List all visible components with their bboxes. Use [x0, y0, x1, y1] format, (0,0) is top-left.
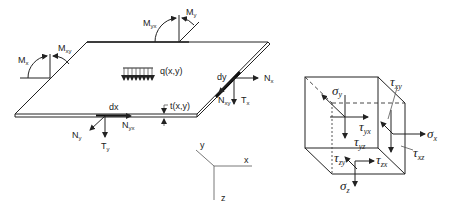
- label-dy: dy: [217, 72, 227, 82]
- label-myx: Myx: [143, 18, 157, 29]
- label-dx: dx: [109, 102, 119, 112]
- label-tau-yz: τyz: [354, 134, 366, 151]
- label-ny: Ny: [72, 130, 82, 141]
- label-tau-xz: τxz: [413, 145, 425, 162]
- moment-mx-mxy: Mx Mxy: [18, 43, 72, 78]
- label-tx: Tx: [241, 95, 250, 106]
- label-thickness: t(x,y): [170, 101, 190, 111]
- label-nx: Nx: [264, 73, 274, 84]
- axis-z-label: z: [221, 193, 226, 203]
- plate: [15, 42, 270, 117]
- moment-myx-my: Myx My: [143, 7, 199, 42]
- label-nxy: Nxy: [218, 95, 231, 106]
- label-ty: Ty: [101, 141, 110, 152]
- label-mxy: Mxy: [58, 43, 72, 54]
- label-my: My: [186, 7, 197, 18]
- axis-y-label: y: [200, 140, 205, 150]
- label-load-q: q(x,y): [160, 66, 183, 76]
- coordinate-axes: x y z: [196, 140, 252, 203]
- label-nyx: Nyx: [122, 120, 135, 131]
- label-sigma-z: σz: [340, 178, 350, 195]
- label-tau-xy: τxy: [390, 74, 402, 91]
- label-sigma-x: σx: [427, 126, 437, 143]
- label-mx: Mx: [18, 55, 29, 66]
- plate-stress-diagram: Mx Mxy Myx My q(x,y) t(x,y) dx Ny: [0, 0, 452, 210]
- stress-cube: σy τyx τyz τxy σx τxz τzy τzx σz: [305, 74, 437, 195]
- dx-forces: dx Ny Ty Nyx: [72, 102, 135, 152]
- label-tau-zy: τzy: [334, 150, 346, 167]
- distributed-load: q(x,y): [123, 66, 183, 80]
- axis-x-label: x: [244, 155, 249, 165]
- label-tau-yx: τyx: [359, 119, 371, 136]
- label-sigma-y: σy: [332, 83, 342, 99]
- label-tau-zx: τzx: [376, 152, 388, 169]
